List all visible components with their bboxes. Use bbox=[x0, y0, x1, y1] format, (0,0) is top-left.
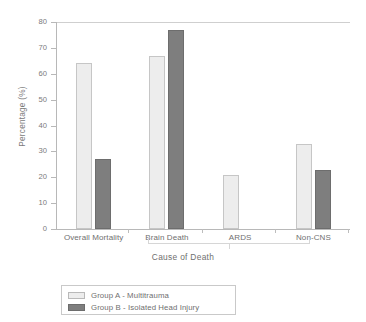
bar-group-a bbox=[149, 56, 165, 229]
bar-group-b bbox=[315, 170, 331, 230]
x-axis-category-label: ARDS bbox=[204, 233, 277, 242]
bar-group-a bbox=[296, 144, 312, 229]
y-axis-tick-label: 20 bbox=[39, 172, 47, 181]
x-axis-category-label: Non-CNS bbox=[277, 233, 350, 242]
category-stem-artifact bbox=[229, 243, 230, 249]
x-axis-category-label: Brain Death bbox=[130, 233, 203, 242]
legend-item: Group B - Isolated Head Injury bbox=[68, 302, 229, 313]
legend: Group A - Multitrauma Group B - Isolated… bbox=[61, 285, 236, 315]
y-axis-tick-label: 70 bbox=[39, 43, 47, 52]
y-axis-tick-label: 0 bbox=[43, 224, 47, 233]
y-axis-tick-label: 80 bbox=[39, 17, 47, 26]
x-axis-title: Cause of Death bbox=[0, 252, 366, 262]
bar-group-b bbox=[168, 30, 184, 229]
bar-series-layer bbox=[57, 22, 350, 229]
bar-group-a bbox=[76, 63, 92, 229]
y-axis-title: Percentage (%) bbox=[18, 57, 27, 177]
y-axis-tick-label: 10 bbox=[39, 198, 47, 207]
bar-group-b bbox=[95, 159, 111, 229]
bar-group-a bbox=[223, 175, 239, 229]
y-axis-tick-label: 60 bbox=[39, 69, 47, 78]
legend-label-group-a: Group A - Multitrauma bbox=[91, 291, 169, 300]
y-axis-tick-label: 40 bbox=[39, 121, 47, 130]
bar-chart-figure: Percentage (%) 01020304050607080 Overall… bbox=[0, 0, 366, 322]
y-axis-tick-label: 50 bbox=[39, 95, 47, 104]
x-axis-line bbox=[56, 229, 350, 230]
legend-item: Group A - Multitrauma bbox=[68, 290, 229, 301]
y-axis-tick: 0 bbox=[51, 229, 57, 230]
plot-area: Percentage (%) 01020304050607080 Overall… bbox=[0, 0, 366, 258]
legend-swatch-group-b bbox=[68, 304, 85, 311]
x-axis-category-label: Overall Mortality bbox=[57, 233, 130, 242]
legend-label-group-b: Group B - Isolated Head Injury bbox=[91, 303, 199, 312]
legend-swatch-group-a bbox=[68, 292, 85, 299]
y-axis-tick-label: 30 bbox=[39, 146, 47, 155]
